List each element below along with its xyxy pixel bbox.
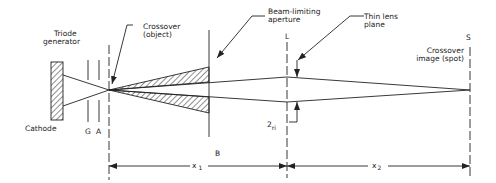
cathode	[51, 62, 63, 120]
dimension-x2-label: x2	[372, 161, 381, 171]
triode-label-2: generator	[43, 37, 81, 46]
lens-letter: L	[285, 32, 290, 41]
x1-sub: 1	[198, 164, 202, 171]
aperture-leader	[217, 16, 265, 58]
x2-main: x	[372, 161, 377, 170]
aperture-letter: B	[215, 149, 220, 158]
crossover-label-2: (object)	[143, 30, 172, 39]
crossover-leader	[112, 25, 133, 84]
lens-leader	[298, 16, 364, 60]
spot-letter: S	[466, 33, 471, 42]
radius-label: 2ri	[267, 120, 276, 131]
x2-sub: 2	[377, 164, 381, 171]
x1-main: x	[192, 161, 197, 170]
grid-label: G	[85, 127, 91, 136]
dimension-x1-label: x1	[192, 161, 202, 171]
aperture-label-2: aperture	[268, 15, 301, 24]
radius-sub: ri	[272, 124, 276, 131]
lens-label-2: plane	[364, 20, 385, 29]
beam-cathode-top	[63, 75, 109, 90]
beam-cathode-bottom	[63, 90, 109, 106]
electron-optics-diagram: Triode generator Crossover (object) Beam…	[0, 0, 496, 183]
anode-label: A	[96, 127, 102, 136]
cathode-label: Cathode	[25, 124, 57, 133]
spot-label-2: image (spot)	[416, 54, 464, 63]
radius-arrow-bottom	[289, 102, 297, 122]
